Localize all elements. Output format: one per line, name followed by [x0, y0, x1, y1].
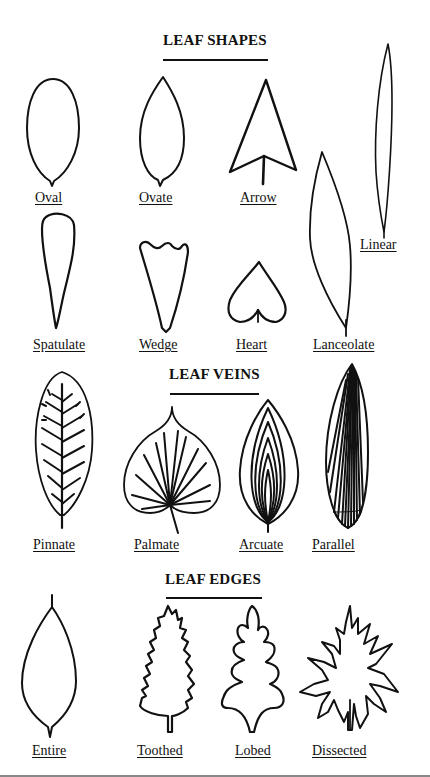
- pinnate-leaf-icon: [32, 370, 96, 532]
- arcuate-leaf-icon: [238, 398, 302, 534]
- lobed-leaf-icon: [218, 604, 288, 738]
- palmate-label: Palmate: [134, 537, 179, 553]
- toothed-leaf-icon: [138, 604, 198, 736]
- arrow-label: Arrow: [240, 190, 277, 206]
- ovate-leaf-icon: [138, 76, 188, 190]
- lanceolate-label: Lanceolate: [313, 337, 374, 353]
- leaf-edges-title: LEAF EDGES: [163, 571, 263, 588]
- pinnate-label: Pinnate: [33, 537, 75, 553]
- entire-leaf-icon: [20, 593, 78, 739]
- leaf-shapes-title: LEAF SHAPES: [160, 32, 270, 49]
- ovate-label: Ovate: [139, 190, 172, 206]
- spatulate-label: Spatulate: [33, 337, 85, 353]
- oval-leaf-icon: [25, 78, 85, 190]
- wedge-leaf-icon: [138, 240, 190, 336]
- arrow-leaf-icon: [228, 78, 298, 186]
- heart-leaf-icon: [226, 260, 288, 326]
- dissected-label: Dissected: [312, 743, 366, 759]
- palmate-leaf-icon: [122, 405, 222, 535]
- parallel-leaf-icon: [324, 362, 372, 532]
- toothed-label: Toothed: [137, 743, 183, 759]
- entire-label: Entire: [32, 743, 66, 759]
- linear-leaf-icon: [372, 42, 396, 240]
- heart-label: Heart: [236, 337, 267, 353]
- oval-label: Oval: [35, 190, 62, 206]
- leaf-veins-title: LEAF VEINS: [167, 366, 262, 383]
- spatulate-leaf-icon: [38, 213, 78, 331]
- linear-label: Linear: [360, 237, 397, 253]
- arcuate-label: Arcuate: [239, 537, 283, 553]
- leaf-shapes-title-rule: [163, 59, 268, 61]
- dissected-leaf-icon: [298, 604, 406, 738]
- parallel-label: Parallel: [312, 537, 355, 553]
- lanceolate-leaf-icon: [308, 150, 358, 340]
- leaf-veins-title-rule: [170, 393, 259, 395]
- wedge-label: Wedge: [139, 337, 178, 353]
- leaf-edges-title-rule: [166, 597, 262, 599]
- lobed-label: Lobed: [235, 743, 271, 759]
